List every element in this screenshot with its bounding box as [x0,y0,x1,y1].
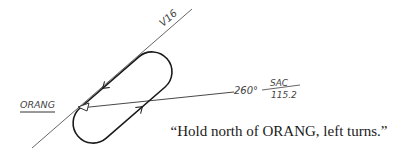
caption: “Hold north of ORANG, left turns.” [160,123,398,140]
station-identifier: SAC [270,78,289,88]
station-frequency: 115.2 [271,90,297,100]
airway-label: V16 [157,7,179,28]
radial-bearing: 260° [234,85,258,96]
fix-label: ORANG [20,99,55,110]
